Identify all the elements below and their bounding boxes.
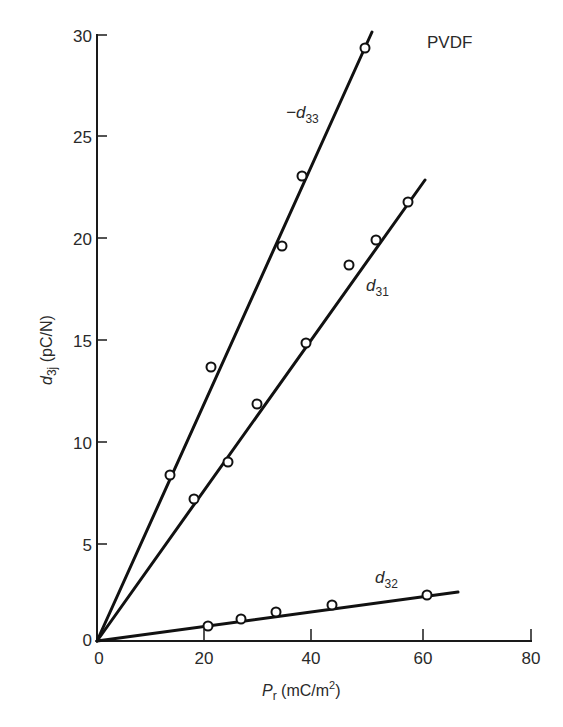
data-point xyxy=(253,400,262,409)
x-tick-0: 0 xyxy=(94,649,103,668)
data-point xyxy=(328,601,337,610)
data-point xyxy=(272,608,281,617)
data-point xyxy=(190,495,199,504)
points-d31 xyxy=(190,198,413,504)
y-tick-labels: 30 25 20 15 10 5 0 xyxy=(73,27,92,650)
y-tick-30: 30 xyxy=(73,27,92,46)
data-point xyxy=(298,172,307,181)
x-ticks xyxy=(204,629,531,641)
y-tick-10: 10 xyxy=(73,434,92,453)
data-point xyxy=(372,236,381,245)
series-label-d31: d31 xyxy=(366,276,389,299)
data-point xyxy=(204,622,213,631)
data-point xyxy=(302,339,311,348)
x-tick-60: 60 xyxy=(414,649,433,668)
y-tick-20: 20 xyxy=(73,230,92,249)
data-point xyxy=(345,261,354,270)
y-tick-15: 15 xyxy=(73,332,92,351)
y-axis-title: d3j (pC/N) xyxy=(38,315,59,385)
y-ticks xyxy=(97,35,107,544)
data-point xyxy=(423,591,432,600)
x-axis-title: Pr (mC/m2) xyxy=(262,679,341,703)
data-point xyxy=(278,242,287,251)
chart-title: PVDF xyxy=(427,33,472,52)
chart-canvas: 30 25 20 15 10 5 0 0 20 40 60 80 xyxy=(0,0,563,727)
y-tick-0: 0 xyxy=(83,631,92,650)
data-point xyxy=(207,363,216,372)
y-tick-5: 5 xyxy=(83,536,92,555)
data-point xyxy=(404,198,413,207)
fit-lines xyxy=(97,32,458,641)
data-point xyxy=(166,471,175,480)
series-label-d32: d32 xyxy=(375,568,398,591)
fit-line-d33 xyxy=(97,32,372,641)
x-tick-20: 20 xyxy=(195,649,214,668)
data-point xyxy=(237,615,246,624)
x-tick-80: 80 xyxy=(522,649,541,668)
data-point xyxy=(224,458,233,467)
x-tick-40: 40 xyxy=(302,649,321,668)
y-tick-25: 25 xyxy=(73,128,92,147)
series-label-d33: −d33 xyxy=(286,103,319,126)
data-point xyxy=(361,44,370,53)
x-tick-labels: 0 20 40 60 80 xyxy=(94,649,540,668)
